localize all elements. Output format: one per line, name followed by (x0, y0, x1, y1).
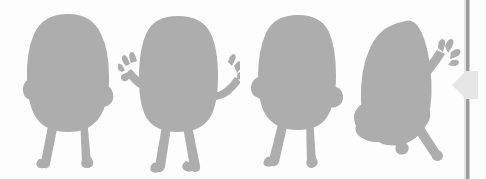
figure-arms-raised[interactable] (118, 0, 240, 179)
collapse-panel-chevron[interactable] (452, 70, 478, 100)
figure-3-silhouette (251, 15, 343, 168)
character-frames-canvas[interactable] (0, 0, 464, 179)
chevron-left-icon (452, 71, 478, 99)
character-sheet-viewport (0, 0, 486, 179)
figure-2-silhouette (118, 16, 240, 173)
figure-4-silhouette (354, 20, 461, 161)
figure-standing-arms-down[interactable] (16, 0, 124, 179)
figure-1-silhouette (23, 14, 114, 168)
figure-tilted-one-arm-up[interactable] (338, 0, 464, 179)
